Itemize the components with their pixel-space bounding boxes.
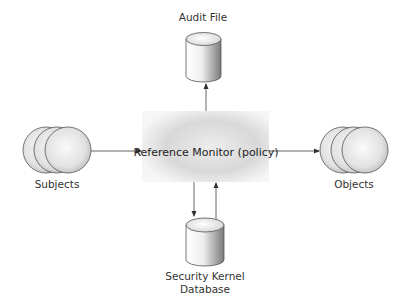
objects-circles-icon [320,127,388,173]
subjects-label: Subjects [35,178,80,191]
audit-file-cylinder-icon [186,33,221,83]
kernel-database-cylinder-icon [186,218,224,266]
kernel-db-label-line1: Security Kernel [165,270,244,283]
kernel-db-label-line2: Database [180,283,230,296]
audit-file-label: Audit File [179,11,227,24]
subjects-circles-icon [23,127,91,173]
reference-monitor-label: Reference Monitor (policy) [133,146,278,159]
objects-label: Objects [334,178,374,191]
